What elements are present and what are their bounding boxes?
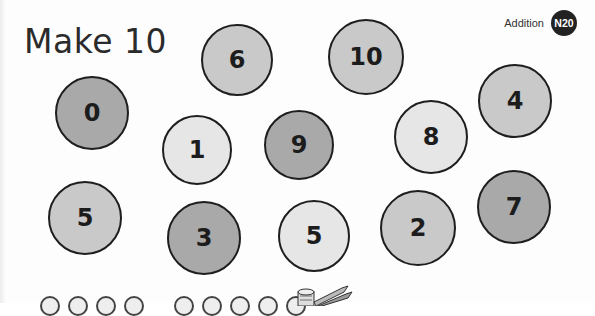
number-circle-8: 8 xyxy=(394,100,468,174)
circle-number: 1 xyxy=(189,136,206,164)
number-circle-6: 6 xyxy=(201,24,273,96)
pencils-and-coins-icon xyxy=(296,284,354,306)
bottom-counters-partial xyxy=(40,296,306,316)
counter-dot xyxy=(40,296,60,316)
circle-number: 6 xyxy=(229,46,246,74)
counter-dot xyxy=(174,296,194,316)
worksheet-title: Make 10 xyxy=(24,22,167,61)
number-circle-9: 9 xyxy=(264,110,334,180)
circle-number: 3 xyxy=(196,224,213,252)
circle-number: 7 xyxy=(506,193,523,221)
number-circle-7: 7 xyxy=(477,170,551,244)
counter-dot xyxy=(124,296,144,316)
number-circle-4: 4 xyxy=(478,64,552,138)
number-circle-5: 5 xyxy=(278,200,350,272)
topic-label: Addition xyxy=(504,17,544,29)
number-circle-5: 5 xyxy=(48,181,122,255)
counter-dot xyxy=(68,296,88,316)
number-circle-10: 10 xyxy=(328,19,404,95)
number-circle-1: 1 xyxy=(162,115,232,185)
number-circle-0: 0 xyxy=(55,76,129,150)
circle-number: 4 xyxy=(507,87,524,115)
number-circle-2: 2 xyxy=(380,190,456,266)
worksheet-code-badge: N20 xyxy=(551,10,577,36)
circle-number: 0 xyxy=(84,99,101,127)
circle-number: 9 xyxy=(291,131,308,159)
topic-header: Addition N20 xyxy=(504,10,577,36)
circle-number: 5 xyxy=(77,204,94,232)
counter-dot xyxy=(230,296,250,316)
circle-number: 2 xyxy=(410,214,427,242)
number-circle-3: 3 xyxy=(167,201,241,275)
counter-dot xyxy=(202,296,222,316)
circle-number: 5 xyxy=(306,222,323,250)
counter-dot xyxy=(258,296,278,316)
page-edge-shadow xyxy=(0,0,6,303)
counter-dot xyxy=(96,296,116,316)
circle-number: 10 xyxy=(349,43,382,71)
circle-number: 8 xyxy=(423,123,440,151)
